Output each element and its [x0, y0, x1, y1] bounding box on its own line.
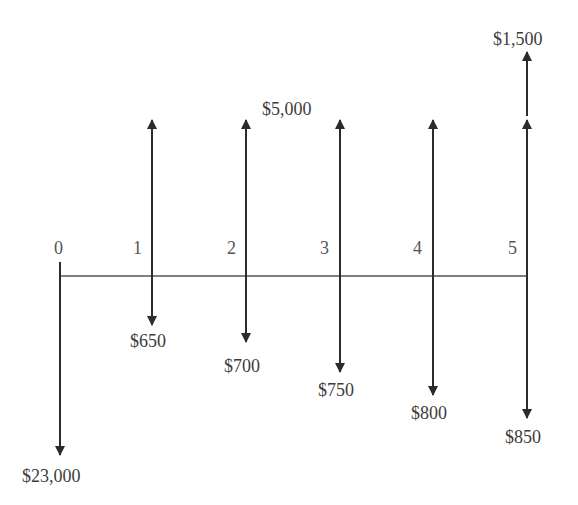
- period-label-2: 2: [227, 238, 236, 258]
- outflow-label-4: $800: [411, 403, 447, 423]
- outflow-label-0: $23,000: [22, 466, 81, 486]
- annual-inflow-label: $5,000: [262, 99, 312, 119]
- outflow-label-2: $700: [224, 356, 260, 376]
- outflow-label-5: $850: [505, 427, 541, 447]
- cash-flow-diagram: 0 1 2 3 4 5 $5,000 $1,500 $23,000 $650 $…: [0, 0, 578, 505]
- cash-flow-svg: [0, 0, 578, 505]
- period-label-4: 4: [413, 238, 422, 258]
- period-label-1: 1: [133, 238, 142, 258]
- period-label-5: 5: [508, 238, 517, 258]
- outflow-label-1: $650: [130, 331, 166, 351]
- outflow-label-3: $750: [318, 380, 354, 400]
- salvage-inflow-label: $1,500: [493, 29, 543, 49]
- period-label-0: 0: [54, 238, 63, 258]
- period-label-3: 3: [320, 238, 329, 258]
